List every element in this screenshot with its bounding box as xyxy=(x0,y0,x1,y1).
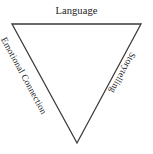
triangle-label-language: Language xyxy=(0,6,153,17)
triangle-diagram: Language Emotional Connection Storytelli… xyxy=(0,0,153,154)
